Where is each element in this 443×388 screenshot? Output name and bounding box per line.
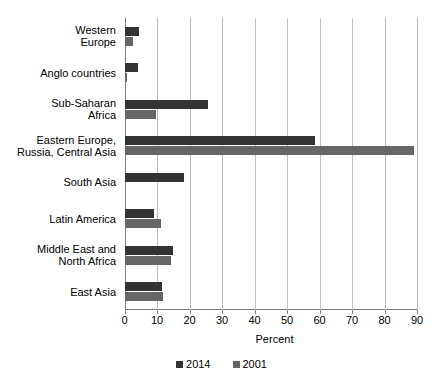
- legend-item[interactable]: 2014: [176, 358, 210, 370]
- bar-group: [125, 274, 418, 311]
- x-axis-tick-label: 20: [183, 314, 195, 327]
- category-label: Middle East and North Africa: [0, 237, 120, 274]
- bar-2014: [125, 136, 315, 145]
- category-label: Western Europe: [0, 18, 120, 55]
- bar-group: [125, 164, 418, 201]
- bar-group: [125, 91, 418, 128]
- bar-2014: [125, 63, 139, 72]
- bar-2001: [125, 256, 171, 265]
- bar-2001: [125, 292, 163, 301]
- bar-chart: Western EuropeAnglo countriesSub-Saharan…: [0, 0, 443, 388]
- legend-label: 2001: [243, 358, 267, 370]
- category-axis-labels: Western EuropeAnglo countriesSub-Saharan…: [0, 18, 120, 310]
- category-label: Sub-Saharan Africa: [0, 91, 120, 128]
- bar-2014: [125, 100, 208, 109]
- x-axis-tick-label: 50: [281, 314, 293, 327]
- x-axis-tick-label: 10: [151, 314, 163, 327]
- gridline: [417, 18, 418, 310]
- bar-group: [125, 128, 418, 165]
- legend-swatch-icon: [233, 361, 240, 368]
- bar-group: [125, 18, 418, 55]
- category-label: Anglo countries: [0, 55, 120, 92]
- x-axis-title-text: Percent: [256, 333, 294, 345]
- bar-2014: [125, 282, 162, 291]
- bar-2001: [125, 37, 133, 46]
- bar-spacer: [125, 72, 418, 73]
- category-label: South Asia: [0, 164, 120, 201]
- bar-spacer: [125, 291, 418, 292]
- x-axis-title: Percent: [0, 333, 443, 345]
- chart-legend: 20142001: [0, 358, 443, 370]
- x-axis-tick-label: 0: [121, 314, 127, 327]
- plot-area: [125, 18, 418, 310]
- x-axis-tick-label: 30: [216, 314, 228, 327]
- bar-2014: [125, 173, 184, 182]
- x-axis-tick-labels: 0102030405060708090: [0, 314, 443, 328]
- bar-group: [125, 201, 418, 238]
- bar-2001: [125, 110, 157, 119]
- bar-group: [125, 55, 418, 92]
- bar-2014: [125, 27, 140, 36]
- legend-label: 2014: [186, 358, 210, 370]
- x-axis-tick-label: 60: [313, 314, 325, 327]
- legend-swatch-icon: [176, 361, 183, 368]
- x-axis-tick-label: 80: [378, 314, 390, 327]
- bar-group: [125, 237, 418, 274]
- category-label: East Asia: [0, 274, 120, 311]
- x-axis-tick-label: 40: [248, 314, 260, 327]
- bar-spacer: [125, 218, 418, 219]
- category-label: Latin America: [0, 201, 120, 238]
- bar-2001: [125, 146, 414, 155]
- bar-2014: [125, 246, 173, 255]
- x-axis-tick-label: 70: [346, 314, 358, 327]
- bar-2014: [125, 209, 155, 218]
- bar-2001: [125, 73, 128, 82]
- x-axis-tick-label: 90: [411, 314, 423, 327]
- bar-2001: [125, 219, 161, 228]
- legend-item[interactable]: 2001: [233, 358, 267, 370]
- category-label: Eastern Europe, Russia, Central Asia: [0, 128, 120, 165]
- bar-spacer: [125, 109, 418, 110]
- bar-spacer: [125, 36, 418, 37]
- bar-spacer: [125, 182, 418, 183]
